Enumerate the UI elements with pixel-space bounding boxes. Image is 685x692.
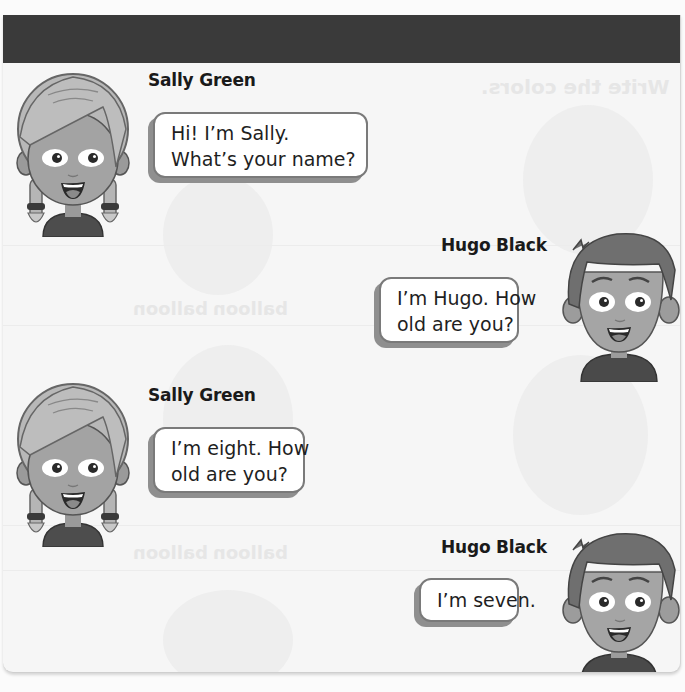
header-bar — [3, 15, 680, 63]
speech-line: What’s your name? — [171, 146, 354, 172]
boy-avatar — [559, 522, 681, 673]
speaker-name: Sally Green — [148, 385, 256, 405]
bleed-through-word: balloon — [213, 298, 288, 319]
boy-avatar — [559, 222, 681, 382]
speech-bubble: I’m eight. How old are you? — [153, 427, 305, 493]
speech-line: I’m Hugo. How — [397, 285, 505, 311]
bleed-through-word: balloon — [213, 542, 288, 563]
speaker-name: Hugo Black — [441, 235, 547, 255]
speech-line: old are you? — [171, 461, 291, 487]
speech-line: old are you? — [397, 311, 505, 337]
speaker-name: Hugo Black — [441, 537, 547, 557]
speech-bubble: I’m seven. — [419, 578, 519, 622]
bleed-through-heading: Write the colors. — [481, 75, 669, 99]
speaker-name: Sally Green — [148, 70, 256, 90]
speech-line: Hi! I’m Sally. — [171, 120, 354, 146]
bleed-through-balloon — [163, 175, 273, 295]
bleed-through-word: balloon — [133, 298, 208, 319]
speech-bubble: I’m Hugo. How old are you? — [379, 277, 519, 343]
speech-line: I’m eight. How — [171, 435, 291, 461]
speech-line: I’m seven. — [437, 587, 505, 613]
bleed-through-balloon — [163, 590, 293, 673]
speech-bubble: Hi! I’m Sally. What’s your name? — [153, 112, 368, 178]
girl-avatar — [8, 67, 138, 237]
girl-avatar — [8, 377, 138, 547]
bleed-through-word: balloon — [133, 542, 208, 563]
page-panel: Write the colors. balloon balloon balloo… — [3, 15, 681, 673]
